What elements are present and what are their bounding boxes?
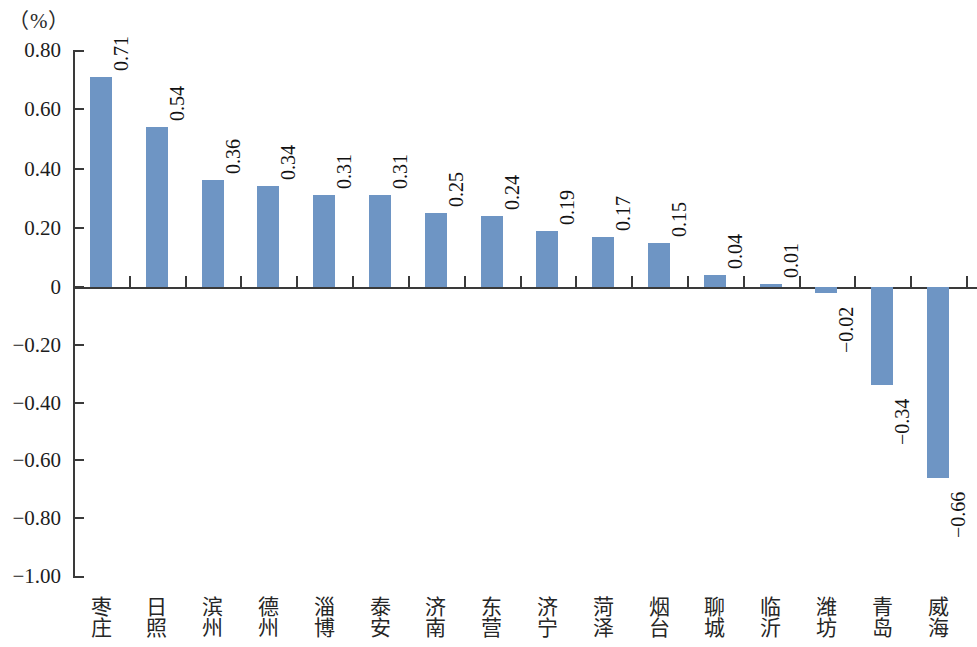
- y-axis-tick-label: 0.20: [0, 215, 61, 240]
- x-axis-tick-mark: [129, 276, 131, 287]
- bar: [425, 213, 447, 287]
- x-axis-zero-line: [73, 287, 977, 289]
- bar-value-label: 0.54: [166, 86, 189, 121]
- bar: [313, 195, 335, 287]
- bar: [648, 243, 670, 287]
- bar-value-label: −0.34: [891, 399, 914, 445]
- y-axis-tick-mark: [75, 344, 84, 346]
- bar-value-label: 0.25: [445, 172, 468, 207]
- bar-value-label: 0.31: [389, 154, 412, 189]
- y-axis-tick-mark: [75, 286, 84, 288]
- y-axis-tick-label: −1.00: [0, 564, 61, 589]
- bar: [369, 195, 391, 287]
- bar-value-label: 0.24: [501, 175, 524, 210]
- bar: [760, 284, 782, 287]
- x-axis-category-label: 临沂: [756, 597, 786, 640]
- x-axis-tick-mark: [743, 276, 745, 287]
- bar: [146, 127, 168, 287]
- x-axis-tick-mark: [687, 276, 689, 287]
- x-axis-category-label: 淄博: [309, 597, 339, 640]
- bar: [481, 216, 503, 287]
- x-axis-category-label: 日照: [142, 597, 172, 640]
- bar: [202, 180, 224, 287]
- x-axis-tick-mark: [296, 276, 298, 287]
- y-axis-tick-label: 0.60: [0, 97, 61, 122]
- bar-value-label: 0.15: [668, 202, 691, 237]
- y-axis-top-cap: [73, 50, 84, 52]
- y-axis-tick-label: −0.80: [0, 506, 61, 531]
- x-axis-category-label: 济南: [421, 597, 451, 640]
- x-axis-tick-mark: [966, 276, 968, 287]
- bar-value-label: 0.19: [556, 190, 579, 225]
- bar: [704, 275, 726, 287]
- x-axis-tick-mark: [240, 276, 242, 287]
- bar-value-label: 0.04: [724, 234, 747, 269]
- x-axis-tick-mark: [854, 276, 856, 287]
- x-axis-tick-mark: [910, 276, 912, 287]
- x-axis-tick-mark: [185, 276, 187, 287]
- bar: [815, 287, 837, 293]
- x-axis-category-label: 德州: [253, 597, 283, 640]
- bar: [257, 186, 279, 287]
- bar-value-label: −0.02: [835, 306, 858, 352]
- x-axis-tick-mark: [799, 276, 801, 287]
- y-axis-tick-label: −0.60: [0, 448, 61, 473]
- y-axis-tick-label: 0: [0, 275, 61, 300]
- bar: [927, 287, 949, 478]
- bar-value-label: 0.17: [612, 196, 635, 231]
- y-axis-tick-label: −0.40: [0, 390, 61, 415]
- bar-value-label: 0.01: [780, 243, 803, 278]
- bar-value-label: −0.66: [947, 491, 970, 537]
- x-axis-tick-mark: [520, 276, 522, 287]
- bar-chart-plot: 0.800.600.400.200−0.20−0.40−0.60−0.80−1.…: [0, 0, 977, 647]
- y-axis-bottom-cap: [73, 576, 84, 578]
- chart-page: （%） 0.800.600.400.200−0.20−0.40−0.60−0.8…: [0, 0, 977, 647]
- bar-value-label: 0.31: [333, 154, 356, 189]
- x-axis-tick-mark: [575, 276, 577, 287]
- y-axis-line: [73, 50, 75, 576]
- x-axis-category-label: 烟台: [644, 597, 674, 640]
- bar: [90, 77, 112, 287]
- x-axis-category-label: 济宁: [532, 597, 562, 640]
- y-axis-tick-mark: [75, 459, 84, 461]
- x-axis-category-label: 威海: [923, 597, 953, 640]
- y-axis-tick-mark: [75, 108, 84, 110]
- y-axis-tick-mark: [75, 168, 84, 170]
- x-axis-category-label: 菏泽: [588, 597, 618, 640]
- y-axis-tick-mark: [75, 227, 84, 229]
- bar: [592, 237, 614, 287]
- x-axis-category-label: 青岛: [867, 597, 897, 640]
- x-axis-tick-mark: [73, 276, 75, 287]
- y-axis-tick-label: 0.80: [0, 38, 61, 63]
- bar: [536, 231, 558, 287]
- x-axis-tick-mark: [464, 276, 466, 287]
- bar-value-label: 0.36: [222, 139, 245, 174]
- x-axis-category-label: 枣庄: [86, 597, 116, 640]
- bar: [871, 287, 893, 385]
- y-axis-tick-label: 0.40: [0, 156, 61, 181]
- x-axis-category-label: 滨州: [198, 597, 228, 640]
- bar-value-label: 0.71: [110, 36, 133, 71]
- bar-value-label: 0.34: [277, 145, 300, 180]
- x-axis-category-label: 东营: [477, 597, 507, 640]
- x-axis-category-label: 泰安: [365, 597, 395, 640]
- y-axis-tick-label: −0.20: [0, 332, 61, 357]
- x-axis-category-label: 潍坊: [811, 597, 841, 640]
- x-axis-tick-mark: [631, 276, 633, 287]
- x-axis-category-label: 聊城: [700, 597, 730, 640]
- y-axis-tick-mark: [75, 517, 84, 519]
- y-axis-tick-mark: [75, 402, 84, 404]
- x-axis-tick-mark: [408, 276, 410, 287]
- x-axis-tick-mark: [352, 276, 354, 287]
